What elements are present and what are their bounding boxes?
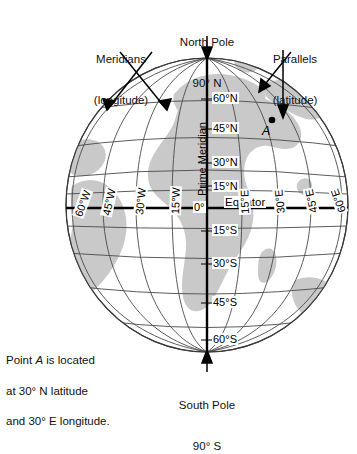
lon-label-15e: 15°E [238, 189, 251, 215]
lat-label-60s: 60°S [212, 333, 238, 345]
callout-parallels-line1: Parallels [254, 53, 336, 67]
lon-label-30e: 30°E [272, 188, 287, 215]
lon-label-15w: 15°W [169, 186, 182, 215]
callout-meridians-line2: (longitude) [78, 94, 164, 108]
lat-label-45n: 45°N [212, 122, 239, 134]
prime-meridian-label: Prime Meridian [196, 122, 208, 196]
caption-line-3: and 30° E longitude. [6, 414, 196, 429]
callout-parallels-line2: (latitude) [254, 94, 336, 108]
callout-parallels: Parallels (latitude) [254, 26, 336, 135]
callout-meridians: Meridians (longitude) [78, 26, 164, 135]
point-a-label: A [262, 124, 270, 138]
north-pole-line2: 90° N [162, 77, 252, 91]
caption-point-label: A [35, 354, 43, 366]
lat-label-15n: 15°N [212, 180, 239, 192]
lat-label-30s: 30°S [212, 257, 238, 269]
lat-label-60n: 60°N [212, 92, 239, 104]
callout-meridians-line1: Meridians [78, 53, 164, 67]
caption-line-2: at 30° N latitude [6, 384, 196, 399]
lat-label-45s: 45°S [212, 296, 238, 308]
lat-label-30n: 30°N [212, 156, 239, 168]
lat-label-15s: 15°S [212, 224, 238, 236]
lat-label-0: 0° [193, 201, 206, 213]
caption-line1-pre: Point [6, 354, 35, 366]
caption-line-1: Point A is located [6, 353, 196, 368]
north-pole-line1: North Pole [162, 36, 252, 50]
caption-line1-post: is located [43, 354, 95, 366]
caption: Point A is located at 30° N latitude and… [6, 338, 196, 444]
